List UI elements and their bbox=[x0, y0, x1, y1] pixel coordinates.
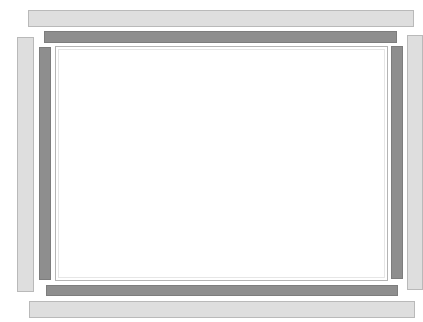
center-panel bbox=[55, 46, 388, 281]
outer-bottom-bar bbox=[29, 301, 415, 318]
inner-bottom-bar bbox=[46, 285, 398, 296]
inner-left-bar bbox=[39, 47, 51, 280]
center-panel-inner-border bbox=[58, 49, 385, 278]
outer-left-bar bbox=[17, 37, 34, 292]
outer-right-bar bbox=[407, 35, 423, 290]
inner-top-bar bbox=[44, 31, 397, 43]
outer-top-bar bbox=[28, 10, 414, 27]
inner-right-bar bbox=[391, 46, 403, 279]
